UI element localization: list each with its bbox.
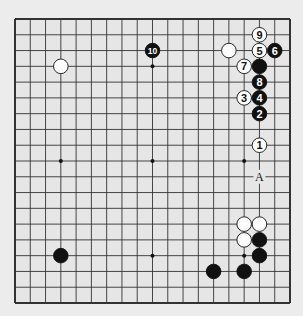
- black-stone: [206, 264, 221, 279]
- black-stone: [237, 264, 252, 279]
- star-point: [242, 159, 246, 163]
- move-number: 1: [256, 139, 262, 151]
- stone-disc: [252, 59, 267, 74]
- black-stone: 2: [252, 106, 267, 121]
- white-stone: [237, 233, 252, 248]
- stone-disc: [237, 233, 252, 248]
- move-number: 4: [256, 92, 263, 104]
- move-number: 7: [241, 60, 247, 72]
- star-point: [151, 159, 155, 163]
- marker-label: A: [255, 170, 264, 184]
- white-stone: 9: [252, 27, 267, 42]
- white-stone: 3: [237, 91, 252, 106]
- stone-disc: [222, 43, 237, 58]
- stone-disc: [252, 248, 267, 263]
- white-stone: [222, 43, 237, 58]
- black-stone: [252, 233, 267, 248]
- stone-disc: [252, 217, 267, 232]
- star-point: [151, 254, 155, 258]
- move-number: 10: [148, 46, 158, 56]
- move-number: 3: [241, 92, 247, 104]
- black-stone: 8: [252, 75, 267, 90]
- white-stone: 1: [252, 138, 267, 153]
- stone-disc: [252, 233, 267, 248]
- star-point: [59, 159, 63, 163]
- board-markers: A: [253, 170, 265, 185]
- move-number: 9: [256, 29, 262, 41]
- go-board: A 10956783421: [0, 0, 303, 316]
- black-stone: [252, 248, 267, 263]
- stone-disc: [237, 264, 252, 279]
- white-stone: 5: [252, 43, 267, 58]
- stone-disc: [206, 264, 221, 279]
- white-stone: 7: [237, 59, 252, 74]
- black-stone: [252, 59, 267, 74]
- stone-disc: [54, 59, 69, 74]
- stone-disc: [54, 248, 69, 263]
- black-stone: 4: [252, 91, 267, 106]
- white-stone: [237, 217, 252, 232]
- move-number: 5: [256, 45, 262, 57]
- stone-disc: [237, 217, 252, 232]
- move-number: 8: [256, 76, 262, 88]
- move-number: 6: [272, 45, 278, 57]
- white-stone: [252, 217, 267, 232]
- star-point: [151, 64, 155, 68]
- white-stone: [54, 59, 69, 74]
- star-point: [242, 254, 246, 258]
- black-stone: [54, 248, 69, 263]
- black-stone: 6: [267, 43, 282, 58]
- black-stone: 10: [145, 43, 160, 58]
- move-number: 2: [256, 108, 262, 120]
